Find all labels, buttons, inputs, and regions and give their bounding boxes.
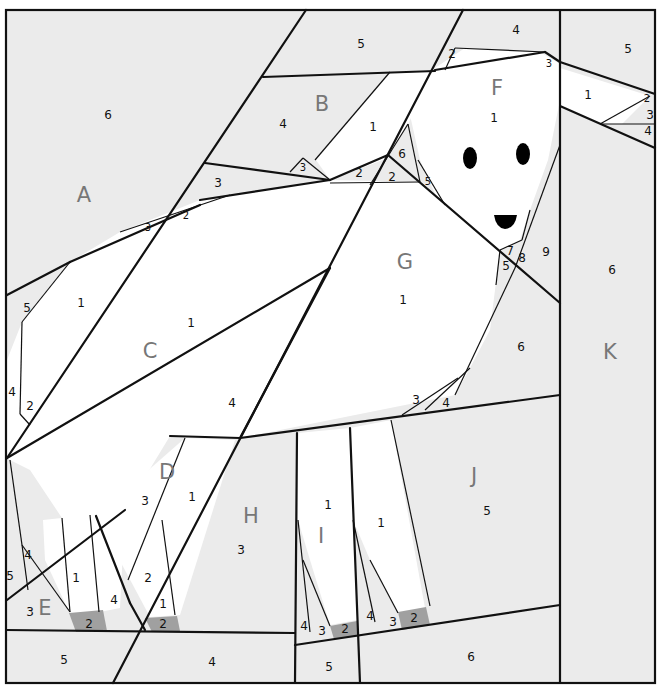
piece-number-e5: 5 (6, 570, 14, 582)
piece-number-b5: 5 (425, 177, 431, 187)
piece-number-f2: 2 (644, 94, 650, 104)
piece-number-h3: 3 (237, 544, 245, 556)
piece-number-e1: 1 (72, 572, 80, 584)
piece-number-d2: 2 (159, 618, 167, 630)
piece-number-a2: 2 (183, 211, 189, 221)
piece-number-b3: 3 (300, 163, 306, 173)
piece-number-i5: 5 (325, 661, 333, 673)
piece-number-a3: 3 (145, 223, 151, 233)
piece-number-i3: 3 (318, 625, 326, 637)
piece-number-b2: 2 (388, 171, 396, 183)
dog-eye-left (463, 147, 477, 169)
piece-number-f4: 4 (644, 125, 652, 137)
piece-number-e5: 5 (60, 654, 68, 666)
piece-number-b4: 4 (279, 118, 287, 130)
piece-number-e2: 2 (85, 618, 93, 630)
piece-number-e4: 4 (24, 549, 32, 561)
piece-number-j5: 5 (483, 505, 491, 517)
section-letter-a: A (77, 185, 91, 206)
piece-number-b2: 2 (355, 167, 363, 179)
piece-number-g5: 5 (502, 260, 510, 272)
section-letter-j: J (471, 466, 477, 487)
piece-number-d2: 2 (144, 572, 152, 584)
section-letter-i: I (318, 526, 324, 547)
section-letter-f: F (491, 78, 503, 99)
piece-number-f1: 1 (584, 89, 592, 101)
piece-number-d1: 1 (188, 491, 196, 503)
piece-number-b1: 1 (369, 121, 377, 133)
piece-number-i2: 2 (341, 623, 349, 635)
piece-number-f2: 2 (448, 48, 456, 60)
piece-number-g4: 4 (442, 397, 450, 409)
piece-number-f3: 3 (546, 59, 552, 69)
section-letter-h: H (243, 506, 259, 527)
piece-number-f4: 4 (512, 24, 520, 36)
piece-number-i1: 1 (324, 499, 332, 511)
piece-number-c1: 1 (187, 317, 195, 329)
piece-number-f5: 5 (624, 43, 632, 55)
section-letter-b: B (315, 94, 329, 115)
piece-number-a4: 4 (8, 386, 16, 398)
piece-number-g7: 7 (506, 245, 514, 257)
piece-number-i4: 4 (300, 620, 308, 632)
section-letter-k: K (603, 342, 617, 363)
piece-number-k6: 6 (608, 264, 616, 276)
piece-number-g3: 3 (412, 394, 420, 406)
section-letter-c: C (143, 341, 158, 362)
quilt-pattern-diagram: A654322B541326235C114D312142E4531254F423… (0, 0, 661, 690)
piece-number-a2: 2 (26, 400, 34, 412)
piece-number-i1: 1 (377, 517, 385, 529)
piece-number-a5: 5 (23, 302, 31, 314)
piece-number-b3: 3 (214, 177, 222, 189)
piece-number-g8: 8 (518, 252, 526, 264)
piece-number-b6: 6 (398, 148, 406, 160)
pattern-lines (0, 0, 661, 690)
piece-number-f1: 1 (490, 112, 498, 124)
piece-number-a6: 6 (104, 109, 112, 121)
piece-number-f3: 3 (646, 109, 654, 121)
piece-number-e4: 4 (208, 656, 216, 668)
section-letter-d: D (159, 462, 175, 483)
piece-number-g9: 9 (542, 246, 550, 258)
piece-number-d1: 1 (159, 598, 167, 610)
section-letter-g: G (397, 252, 413, 273)
section-letter-e: E (38, 598, 51, 619)
piece-number-b5: 5 (357, 38, 365, 50)
piece-number-j6: 6 (467, 651, 475, 663)
dog-eye-right (516, 143, 530, 165)
piece-number-e3: 3 (26, 606, 34, 618)
piece-number-g6: 6 (517, 341, 525, 353)
piece-number-g1: 1 (399, 294, 407, 306)
piece-number-d3: 3 (141, 495, 149, 507)
piece-number-i2: 2 (410, 612, 418, 624)
piece-number-d4: 4 (110, 594, 118, 606)
piece-number-i4: 4 (366, 610, 374, 622)
piece-number-c4: 4 (228, 397, 236, 409)
piece-number-i3: 3 (389, 616, 397, 628)
piece-number-c1: 1 (77, 297, 85, 309)
